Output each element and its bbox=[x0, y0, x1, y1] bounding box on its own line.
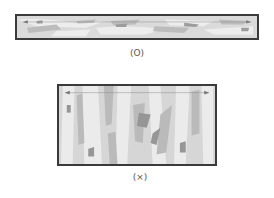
wood-strand-texture-horizontal bbox=[17, 16, 257, 38]
panel-perpendicular-box bbox=[57, 84, 217, 166]
caption-parallel: (O) bbox=[117, 48, 157, 58]
panel-parallel-strip bbox=[15, 14, 259, 40]
caption-perpendicular: (×) bbox=[120, 172, 160, 182]
wood-strand-texture-vertical bbox=[59, 86, 215, 164]
